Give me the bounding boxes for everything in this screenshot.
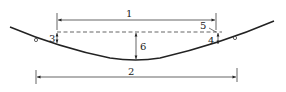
dim3-label: 3 bbox=[49, 33, 55, 44]
dim1-label: 1 bbox=[126, 8, 132, 19]
dim5-label: 5 bbox=[200, 20, 206, 31]
dim5-leader bbox=[209, 28, 216, 32]
dim6-label: 6 bbox=[140, 41, 146, 52]
support-point-right bbox=[233, 36, 236, 39]
dim4-label: 4 bbox=[208, 35, 214, 46]
support-point-left bbox=[34, 38, 37, 41]
diagram-canvas: 1 2 3 4 5 6 bbox=[0, 0, 286, 92]
dim2-label: 2 bbox=[128, 66, 134, 77]
